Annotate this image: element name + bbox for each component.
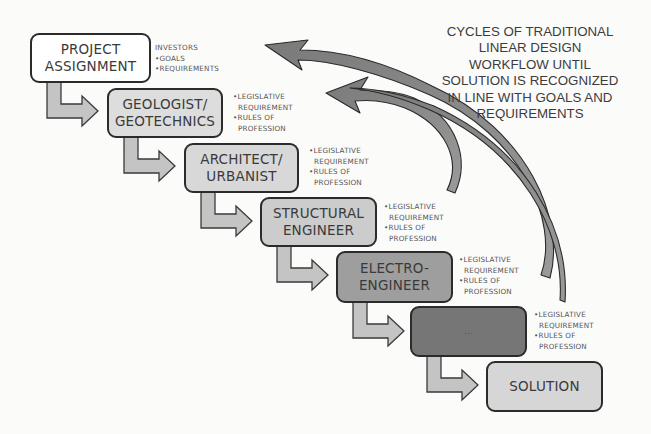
caption-line: SOLUTION IS RECOGNIZED [425,73,635,89]
note-line: •LEGISLATIVE [384,202,444,213]
note-line: PROFESSION [459,287,519,298]
step-box-solution: SOLUTION [486,361,603,412]
note-line: REQUIREMENT [309,157,369,168]
note-line: •LEGISLATIVE [534,310,594,321]
step-box-ellipsis: ... [410,306,527,357]
note-line: •GOALS [155,54,219,65]
step-arrow-6 [427,356,478,400]
note-line: PROFESSION [384,234,444,245]
step-notes-structural-engineer: •LEGISLATIVE REQUIREMENT •RULES OF PROFE… [384,202,444,244]
step-box-electro-engineer: ELECTRO- ENGINEER [336,251,453,303]
step-notes-geologist: •LEGISLATIVE REQUIREMENT •RULES OF PROFE… [233,92,293,134]
step-notes-architect: •LEGISLATIVE REQUIREMENT •RULES OF PROFE… [309,146,369,188]
step-box-project-assignment: PROJECT ASSIGNMENT [30,33,151,83]
note-line: •RULES OF [384,223,444,234]
note-line: REQUIREMENT [534,321,594,332]
step-arrow-1 [47,82,98,126]
workflow-diagram: CYCLES OF TRADITIONAL LINEAR DESIGN WORK… [0,0,651,434]
step-arrow-2 [124,137,175,181]
note-line: •RULES OF [534,331,594,342]
note-line: •REQUIREMENTS [155,64,219,75]
note-line: •LEGISLATIVE [233,92,293,103]
step-arrow-3 [201,192,252,236]
note-line: •RULES OF [309,167,369,178]
caption-line: IN LINE WITH GOALS AND [425,90,635,106]
step-arrow-4 [277,246,328,290]
note-line: REQUIREMENT [233,103,293,114]
step-notes-project-assignment: INVESTORS •GOALS •REQUIREMENTS [155,43,219,75]
note-line: •RULES OF [233,113,293,124]
step-notes-electro-engineer: •LEGISLATIVE REQUIREMENT •RULES OF PROFE… [459,255,519,297]
step-box-structural-engineer: STRUCTURAL ENGINEER [260,197,377,247]
diagram-caption: CYCLES OF TRADITIONAL LINEAR DESIGN WORK… [425,24,635,122]
note-line: •LEGISLATIVE [459,255,519,266]
caption-line: REQUIREMENTS [425,106,635,122]
note-line: PROFESSION [534,342,594,353]
note-line: PROFESSION [309,178,369,189]
step-box-architect: ARCHITECT/ URBANIST [184,143,299,193]
step-box-geologist: GEOLOGIST/ GEOTECHNICS [107,88,223,138]
note-line: INVESTORS [155,43,219,54]
caption-line: LINEAR DESIGN [425,40,635,56]
note-line: REQUIREMENT [384,213,444,224]
step-arrow-5 [353,302,404,346]
note-line: •RULES OF [459,276,519,287]
caption-line: WORKFLOW UNTIL [425,57,635,73]
note-line: PROFESSION [233,124,293,135]
step-notes-ellipsis: •LEGISLATIVE REQUIREMENT •RULES OF PROFE… [534,310,594,352]
note-line: •LEGISLATIVE [309,146,369,157]
note-line: REQUIREMENT [459,266,519,277]
caption-line: CYCLES OF TRADITIONAL [425,24,635,40]
